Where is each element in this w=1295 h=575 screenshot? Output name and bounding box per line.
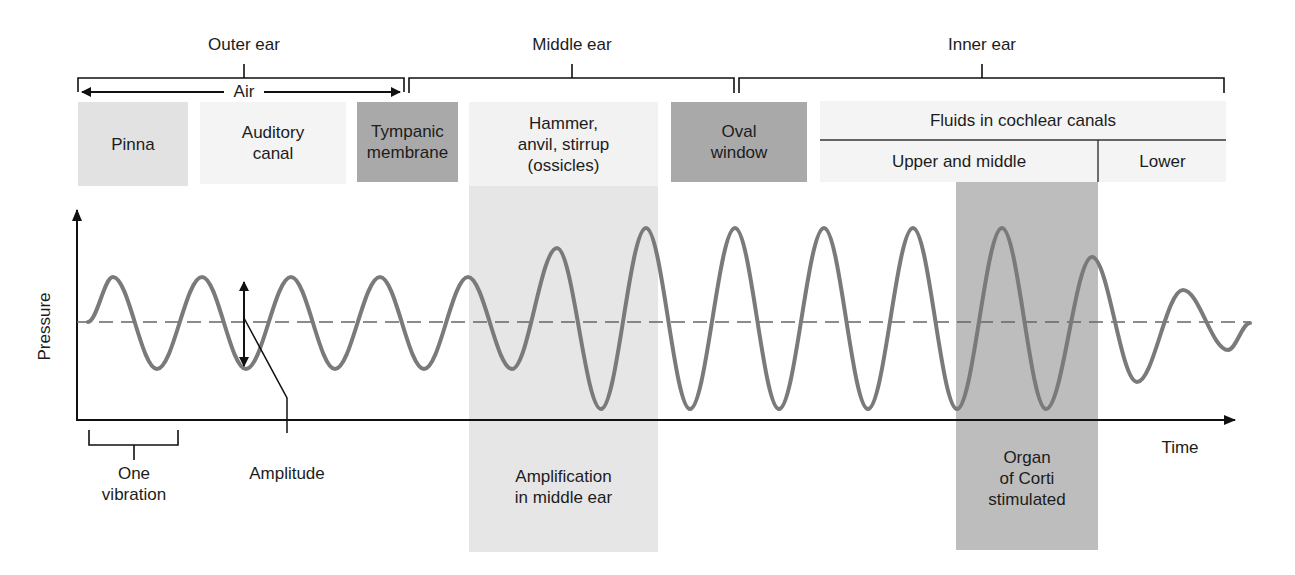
air-label: Air <box>224 81 264 102</box>
middle-ear-bracket <box>409 64 734 93</box>
pressure-wave <box>88 228 1250 409</box>
amplitude-label: Amplitude <box>227 463 347 484</box>
one-vibration-label: One vibration <box>84 463 184 505</box>
outer-ear-label: Outer ear <box>184 34 304 55</box>
organ-of-corti-label: Organ of Corti stimulated <box>956 447 1098 510</box>
middle-ear-label: Middle ear <box>512 34 632 55</box>
ear-sound-transmission-diagram: Pinna Auditory canal Tympanic membrane H… <box>0 0 1295 575</box>
time-axis-label: Time <box>1150 437 1210 458</box>
inner-ear-label: Inner ear <box>922 34 1042 55</box>
pressure-axis-label: Pressure <box>34 287 55 367</box>
amplification-label: Amplification in middle ear <box>469 466 658 508</box>
inner-ear-bracket <box>739 64 1224 93</box>
one-vibration-bracket <box>89 430 178 460</box>
